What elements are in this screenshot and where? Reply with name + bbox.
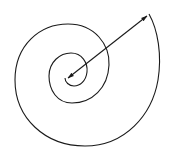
spiral-diagram [0, 0, 173, 161]
spiral-curve [15, 14, 160, 146]
